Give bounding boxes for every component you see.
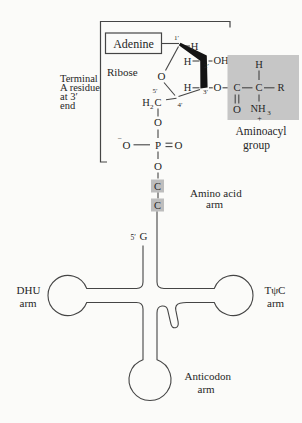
trna-diagram-canvas: Terminal A residue at 3′ end Adenine Rib… bbox=[0, 0, 302, 423]
tpsic-arm-label: TψC arm bbox=[265, 284, 286, 309]
ribose-ring-oxygen: O bbox=[158, 70, 166, 82]
aminoacyl-h: H bbox=[255, 59, 263, 70]
dhu-arm-line2: arm bbox=[20, 297, 38, 309]
phosphate-o-left: O bbox=[123, 139, 131, 151]
terminal-label-line4: end bbox=[60, 100, 76, 111]
phosphate-minus-charge: − bbox=[118, 134, 122, 143]
anticodon-arm-line1: Anticodon bbox=[185, 370, 232, 382]
aminoacyl-label-line1: Aminoacyl bbox=[235, 125, 286, 138]
phosphate-group: O − O P O O bbox=[118, 109, 183, 179]
aminoacyl-carbonyl-o: O bbox=[233, 103, 241, 115]
terminal-residue-label: Terminal A residue at 3′ end bbox=[60, 73, 100, 111]
ribose-c1-prime: 1′ bbox=[174, 34, 180, 42]
ribose-h2c-h: H bbox=[142, 97, 150, 108]
ribose-c3-prime: 3′ bbox=[203, 88, 209, 96]
aminoacyl-nh: NH bbox=[251, 103, 267, 114]
five-prime-end-label: 5′ G bbox=[131, 230, 148, 242]
adenine-label: Adenine bbox=[113, 37, 154, 51]
ribose-label: Ribose bbox=[107, 66, 138, 78]
ribose-h2: H bbox=[184, 56, 192, 67]
phosphate-o-right: O bbox=[175, 139, 183, 151]
anticodon-arm-line2: arm bbox=[198, 383, 216, 395]
phosphate-p: P bbox=[155, 139, 161, 151]
ribose-h1: H bbox=[191, 41, 199, 52]
ribose-h3: H bbox=[184, 82, 192, 93]
trna-structure-figure: Terminal A residue at 3′ end Adenine Rib… bbox=[0, 0, 302, 423]
ribose-o3-oxygen: O bbox=[214, 81, 222, 93]
c-residue-1: C bbox=[154, 181, 161, 192]
ribose-c5-prime: 5′ bbox=[153, 87, 159, 95]
tpsic-arm-line2: arm bbox=[267, 297, 285, 309]
ribose-h2c-c: C bbox=[154, 97, 161, 108]
phosphate-o-top: O bbox=[154, 116, 162, 128]
aminoacyl-nh-sub: 3 bbox=[267, 109, 271, 117]
aminoacyl-c1: C bbox=[233, 82, 240, 93]
ribose-c4-prime: 4′ bbox=[178, 101, 184, 109]
anticodon-arm-label: Anticodon arm bbox=[185, 370, 232, 395]
c-residue-2: C bbox=[154, 200, 161, 211]
tpsic-arm-line1: TψC bbox=[265, 284, 286, 296]
aminoacyl-plus-charge: + bbox=[257, 114, 262, 123]
c-residues: C C bbox=[151, 180, 164, 212]
dhu-arm-label: DHU arm bbox=[17, 284, 41, 309]
aminoacyl-label-line2: group bbox=[243, 139, 270, 152]
five-prime-g-residue: G bbox=[140, 230, 148, 242]
phosphate-o-bottom: O bbox=[154, 160, 162, 172]
adenine-box: Adenine bbox=[106, 33, 162, 54]
amino-acid-arm-line2: arm bbox=[206, 198, 224, 210]
dhu-arm-line1: DHU bbox=[17, 284, 41, 296]
ribose-c2-prime: 2′ bbox=[204, 62, 210, 70]
amino-acid-arm-label: Amino acid arm bbox=[190, 187, 242, 210]
ribose-h2c-sub: 2 bbox=[150, 103, 154, 111]
aminoacyl-group: H C C R O NH 3 + Aminoacyl group bbox=[228, 55, 300, 152]
ribose-oh: OH bbox=[214, 55, 230, 66]
aminoacyl-c2: C bbox=[255, 82, 262, 93]
five-prime-mark: 5′ bbox=[131, 233, 137, 242]
aminoacyl-r: R bbox=[277, 82, 284, 93]
